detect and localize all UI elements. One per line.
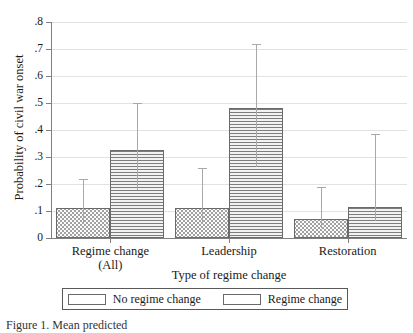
error-bar [375,134,376,221]
x-axis-tick [348,238,349,243]
y-axis-title: Probability of civil war onset [12,13,27,243]
legend-label: No regime change [113,292,201,307]
y-axis-tick [46,130,51,131]
y-axis-tick-label: .7 [34,43,43,55]
legend-item-no-regime-change: No regime change [68,292,201,307]
y-axis-tick [46,184,51,185]
y-axis-tick-label: 0 [37,232,43,244]
x-axis-tick-label: Leadership [201,244,257,258]
y-axis-tick-label: .5 [34,97,43,109]
y-axis-tick [46,238,51,239]
error-bar-cap [133,103,142,104]
legend-swatch-dotted-icon [68,294,106,305]
y-axis-tick [46,211,51,212]
y-axis-tick [46,22,51,23]
x-axis-tick-label-line1: Leadership [201,244,257,258]
y-axis-tick [46,49,51,50]
gridline [52,22,407,23]
y-axis-tick-label: .8 [34,16,43,28]
legend-label: Regime change [268,292,342,307]
y-axis-tick [46,157,51,158]
y-axis-tick [46,76,51,77]
y-axis-tick-label: .1 [34,205,43,217]
error-bar-cap [79,179,88,180]
gridline [52,103,407,104]
gridline [52,49,407,50]
x-axis-tick-label-line1: Regime change [72,244,149,258]
y-axis-tick-label: .3 [34,151,43,163]
x-axis-title: Type of regime change [51,268,407,283]
chart-legend: No regime change Regime change [62,288,348,310]
error-bar-cap [317,187,326,188]
x-axis-tick [110,238,111,243]
x-axis-tick [229,238,230,243]
error-bar-cap [198,168,207,169]
error-bar [202,168,203,222]
error-bar [83,179,84,222]
y-axis-tick-label: .4 [34,124,43,136]
y-axis-tick-label: .2 [34,178,43,190]
error-bar [256,44,257,167]
figure-caption: Figure 1. Mean predicted [6,318,406,333]
legend-swatch-lined-icon [223,294,261,305]
gridline [52,76,407,77]
error-bar-cap [252,44,261,45]
x-axis-tick-label: Restoration [319,244,377,258]
plot-area: 0.1.2.3.4.5.6.7.8Regime change(All)Leade… [51,22,407,238]
error-bar [137,103,138,190]
y-axis-tick-label: .6 [34,70,43,82]
legend-item-regime-change: Regime change [223,292,342,307]
error-bar [321,187,322,228]
y-axis-tick [46,103,51,104]
x-axis-tick-label-line1: Restoration [319,244,377,258]
error-bar-cap [371,134,380,135]
